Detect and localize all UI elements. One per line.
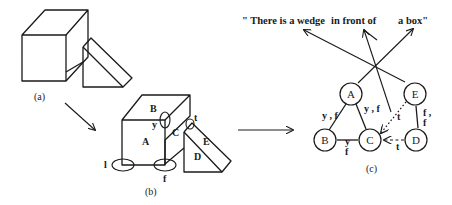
- svg-text:B: B: [321, 134, 328, 146]
- arrow-e-to-wedge: [304, 30, 405, 82]
- wedge-drawing: [66, 38, 132, 87]
- region-label-d: D: [194, 151, 201, 162]
- edge-label-e-d-bottom: f: [423, 117, 427, 128]
- region-label-c: C: [172, 127, 179, 138]
- caption-b: (b): [145, 186, 157, 198]
- edge-label-a-c: y , f: [364, 103, 381, 114]
- panel-c-graph: y , f y , f y f f , f t t A E B C D: [314, 83, 432, 157]
- junction-label-l: l: [104, 159, 107, 170]
- graph-node-a: A: [340, 83, 362, 105]
- svg-text:E: E: [412, 88, 419, 100]
- scene-diagram: (a) B A C D E y t l f (b) " There is a w…: [0, 0, 452, 205]
- edge-label-a-b: y , f: [322, 110, 339, 121]
- panel-b-drawing: B A C D E y t l f: [104, 95, 231, 184]
- edge-label-e-c: t: [397, 111, 401, 122]
- edge-label-d-c: t: [396, 141, 400, 152]
- box-drawing: [22, 10, 88, 81]
- svg-text:C: C: [366, 134, 373, 146]
- region-label-b: B: [150, 103, 157, 114]
- graph-node-e: E: [404, 83, 426, 105]
- caption-c: (c): [366, 163, 377, 175]
- svg-text:A: A: [347, 88, 355, 100]
- region-label-a: A: [142, 136, 150, 147]
- region-label-e: E: [203, 136, 210, 147]
- graph-node-d: D: [405, 129, 427, 151]
- edge-label-b-c-bottom: f: [345, 146, 349, 157]
- panel-a-drawing: [22, 10, 132, 87]
- sentence-part-wedge: " There is a wedge: [242, 15, 325, 26]
- edge-e-c: [381, 102, 406, 133]
- arrow-t-to-in-front-of: [364, 30, 391, 112]
- svg-text:D: D: [412, 134, 420, 146]
- caption-a: (a): [34, 91, 45, 103]
- graph-node-c: C: [359, 129, 381, 151]
- junction-label-f: f: [163, 173, 167, 184]
- arrow-a-to-b: [65, 103, 95, 130]
- graph-node-b: B: [314, 129, 336, 151]
- junction-label-t: t: [194, 112, 198, 123]
- junction-label-y: y: [152, 119, 157, 130]
- sentence-part-in-front-of: in front of: [331, 15, 377, 26]
- sentence-part-box: a box": [398, 15, 428, 26]
- edge-e-d: [416, 106, 418, 128]
